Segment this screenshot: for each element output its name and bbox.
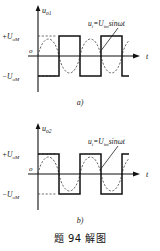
origin-label-a: o [29,47,33,55]
y-axis-label-a: uo1 [42,6,52,16]
waveform-plot-a: uo1 t o +UoM −UoM ui=Uimsinωt [0,0,160,100]
input-signal-annotation-b: ui=Uimsinωt [88,137,126,147]
panel-a-sublabel: a) [0,98,160,107]
upper-level-label-a: +UoM [2,32,20,42]
annotation-leader-a [100,28,118,52]
x-axis-label-a: t [146,52,149,61]
panel-b-sublabel: b) [0,216,160,225]
upper-level-label-b: +UoM [2,150,20,160]
x-axis-arrow-a [133,53,140,58]
panel-b: uo2 t o +UoM −UoM ui=Uimsinωt b) [0,118,160,230]
annotation-leader-b [100,146,118,170]
lower-level-label-b: −UoM [2,190,20,200]
figure-container: uo1 t o +UoM −UoM ui=Uimsinωt a) [0,0,160,251]
y-axis-label-b: uo2 [42,124,52,134]
y-axis-arrow-a [36,5,41,11]
x-axis-label-b: t [146,170,149,179]
origin-label-b: o [29,165,33,173]
x-axis-arrow-b [133,171,140,176]
input-signal-annotation-a: ui=Uimsinωt [88,19,126,29]
y-axis-arrow-b [36,123,41,129]
lower-level-label-a: −UoM [2,72,20,82]
waveform-plot-b: uo2 t o +UoM −UoM ui=Uimsinωt [0,118,160,218]
panel-a: uo1 t o +UoM −UoM ui=Uimsinωt a) [0,0,160,120]
figure-caption: 题 94 解图 [0,230,160,245]
